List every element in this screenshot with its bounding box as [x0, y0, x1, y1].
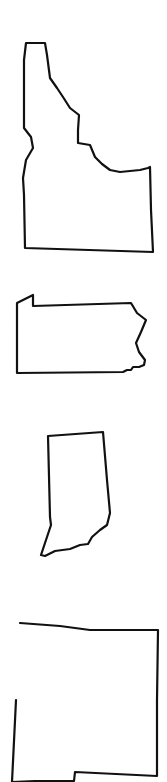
idaho-outline [23, 43, 153, 252]
indiana-outline [41, 432, 110, 556]
pennsylvania-outline [17, 295, 146, 373]
state-outlines-canvas: Idaho Pennsylvania Indiana New Mexico [0, 0, 167, 782]
new-mexico-outline [12, 623, 158, 782]
outlines-svg [0, 0, 167, 782]
